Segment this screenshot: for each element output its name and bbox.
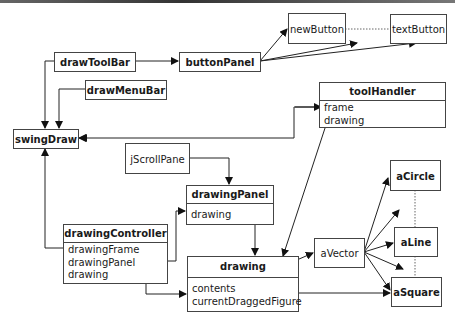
attr-currentdraggedfigure: currentDraggedFigure: [188, 296, 298, 309]
node-label: newButton: [289, 23, 345, 34]
node-label: drawing: [188, 257, 298, 277]
node-swingdraw: swingDraw: [13, 129, 79, 149]
attr-drawingpanel: drawingPanel: [64, 257, 167, 270]
edge-drawtoolbar-swingdraw: [45, 61, 54, 128]
node-newbutton: newButton: [288, 13, 346, 44]
node-label: aLine: [395, 237, 437, 248]
attr-frame: frame: [320, 101, 445, 115]
attr-drawing: drawing: [187, 204, 273, 222]
node-textbutton: textButton: [390, 14, 447, 44]
node-label: aCircle: [391, 170, 440, 181]
attr-contents: contents: [188, 278, 298, 296]
edge-buttonpanel-newbutton: [260, 29, 287, 61]
node-label: jScrollPane: [126, 153, 189, 164]
attr-drawing: drawing: [64, 269, 167, 282]
attr-drawing: drawing: [320, 115, 445, 128]
edge-toolhandler-drawing: [283, 122, 327, 256]
node-label: textButton: [391, 24, 446, 35]
node-aline: aLine: [394, 227, 438, 257]
node-buttonpanel: buttonPanel: [179, 52, 261, 72]
edge-drawingcontroller-swingdraw: [45, 149, 64, 248]
edge-buttonpanel-textbutton: [260, 43, 416, 61]
node-drawtoolbar: drawToolBar: [54, 52, 136, 72]
node-label: toolHandler: [320, 83, 445, 100]
node-toolhandler: toolHandler frame drawing: [319, 82, 446, 128]
edge-toolhandler-swingdraw: [79, 107, 322, 138]
edge-drawmenubar-swingdraw: [59, 89, 85, 128]
attr-drawingframe: drawingFrame: [64, 243, 167, 257]
node-drawing: drawing contents currentDraggedFigure: [187, 256, 299, 312]
node-label: drawMenuBar: [86, 85, 166, 96]
node-label: drawToolBar: [55, 57, 135, 68]
edge-buttonpanel-gap: [260, 43, 357, 61]
node-label: buttonPanel: [180, 57, 260, 68]
edge-jscrollpane-drawingpanel: [189, 158, 229, 184]
node-drawmenubar: drawMenuBar: [85, 80, 167, 100]
node-asquare: aSquare: [391, 277, 442, 307]
node-label: drawingController: [64, 225, 167, 242]
node-label: swingDraw: [14, 134, 78, 145]
edge-avector-acircle: [364, 178, 388, 252]
node-label: drawingPanel: [187, 186, 273, 203]
node-label: aSquare: [392, 287, 441, 298]
node-acircle: aCircle: [390, 160, 441, 191]
node-drawingcontroller: drawingController drawingFrame drawingPa…: [63, 224, 168, 284]
node-avector: aVector: [314, 238, 365, 268]
node-jscrollpane: jScrollPane: [125, 143, 190, 174]
node-drawingpanel: drawingPanel drawing: [186, 185, 274, 225]
node-label: aVector: [315, 248, 364, 259]
